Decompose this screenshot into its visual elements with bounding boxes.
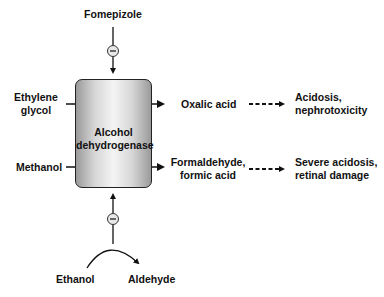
oxalic-acid-label: Oxalic acid	[181, 98, 236, 111]
enzyme-label: Alcohol dehydrogenase	[76, 126, 151, 151]
enzyme-label-line2: dehydrogenase	[76, 139, 151, 152]
formaldehyde-formic-acid-label: Formaldehyde, formic acid	[168, 156, 248, 181]
ethanol-label: Ethanol	[56, 273, 95, 286]
product-2-line2: formic acid	[168, 169, 248, 182]
effect-2-line1: Severe acidosis,	[295, 156, 377, 169]
ethylene-glycol-line2: glycol	[10, 104, 62, 117]
acidosis-nephrotoxicity-label: Acidosis, nephrotoxicity	[295, 91, 367, 116]
inhibition-symbol-bottom	[108, 214, 119, 225]
methanol-label: Methanol	[16, 161, 62, 174]
enzyme-label-line1: Alcohol	[76, 126, 151, 139]
ethylene-glycol-label: Ethylene glycol	[10, 91, 62, 116]
alcohol-dehydrogenase-box: Alcohol dehydrogenase	[75, 79, 152, 188]
ethanol-to-aldehyde-curve	[87, 250, 138, 268]
effect-2-line2: retinal damage	[295, 169, 377, 182]
aldehyde-label: Aldehyde	[128, 273, 175, 286]
fomepizole-label: Fomepizole	[80, 8, 146, 21]
ethylene-glycol-line1: Ethylene	[10, 91, 62, 104]
product-2-line1: Formaldehyde,	[168, 156, 248, 169]
effect-1-line2: nephrotoxicity	[295, 104, 367, 117]
diagram-arrows	[0, 0, 384, 297]
inhibition-symbol-top	[108, 46, 119, 57]
severe-acidosis-retinal-damage-label: Severe acidosis, retinal damage	[295, 156, 377, 181]
effect-1-line1: Acidosis,	[295, 91, 367, 104]
